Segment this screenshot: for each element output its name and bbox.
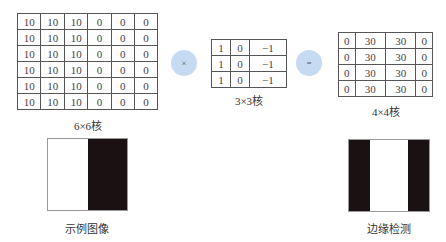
multiply-operator-icon: × — [171, 50, 197, 76]
matrix-cell: 0 — [111, 14, 134, 30]
equals-symbol: = — [306, 58, 311, 68]
image-band — [349, 140, 370, 211]
matrix-cell: −1 — [249, 40, 286, 56]
matrix-row: 101010000 — [18, 30, 158, 46]
input-matrix-6x6: 1010100001010100001010100001010100001010… — [17, 13, 158, 110]
matrix-cell: 10 — [18, 62, 41, 78]
matrix-cell: 1 — [212, 40, 231, 56]
matrix-cell: 0 — [88, 62, 111, 78]
matrix-cell: 0 — [111, 30, 134, 46]
matrix-row: 101010000 — [18, 62, 158, 78]
matrix-cell: 0 — [88, 78, 111, 94]
matrix-cell: 30 — [385, 65, 415, 81]
matrix-cell: 0 — [416, 49, 433, 65]
matrix-row: 10−1 — [212, 40, 287, 56]
image-band — [370, 140, 409, 211]
image-band — [48, 139, 88, 210]
sample-image — [47, 138, 128, 211]
matrix-cell: 0 — [339, 81, 356, 97]
multiply-symbol: × — [181, 58, 186, 68]
input-matrix-label: 6×6核 — [60, 117, 116, 133]
matrix-cell: 0 — [111, 94, 134, 110]
equals-operator-icon: = — [296, 50, 322, 76]
matrix-cell: 1 — [212, 56, 231, 72]
matrix-cell: 0 — [230, 40, 249, 56]
matrix-cell: 10 — [18, 30, 41, 46]
matrix-cell: 30 — [355, 49, 385, 65]
matrix-cell: 30 — [385, 81, 415, 97]
matrix-cell: 0 — [230, 56, 249, 72]
matrix-cell: 30 — [355, 33, 385, 49]
matrix-cell: 30 — [355, 81, 385, 97]
matrix-cell: 0 — [416, 33, 433, 49]
edge-detection-image — [348, 139, 430, 212]
matrix-cell: 10 — [41, 14, 64, 30]
matrix-cell: 0 — [88, 14, 111, 30]
matrix-row: 10−1 — [212, 72, 287, 88]
matrix-cell: −1 — [249, 56, 286, 72]
image-band — [88, 139, 128, 210]
output-matrix-4x4: 030300030300030300030300 — [338, 32, 433, 97]
matrix-cell: 10 — [18, 78, 41, 94]
matrix-cell: 10 — [18, 94, 41, 110]
matrix-cell: 10 — [64, 14, 87, 30]
matrix-cell: 0 — [416, 65, 433, 81]
matrix-cell: 1 — [212, 72, 231, 88]
image-band — [408, 140, 429, 211]
matrix-cell: 0 — [111, 62, 134, 78]
matrix-cell: 10 — [41, 62, 64, 78]
matrix-cell: 10 — [64, 78, 87, 94]
matrix-cell: 0 — [134, 14, 157, 30]
matrix-cell: 0 — [339, 49, 356, 65]
matrix-row: 030300 — [339, 81, 433, 97]
matrix-cell: 10 — [41, 46, 64, 62]
sample-image-label: 示例图像 — [52, 220, 122, 236]
matrix-cell: 0 — [134, 94, 157, 110]
matrix-cell: 10 — [18, 46, 41, 62]
matrix-cell: 0 — [88, 94, 111, 110]
matrix-cell: 10 — [41, 78, 64, 94]
kernel-matrix-3x3: 10−110−110−1 — [211, 39, 287, 88]
matrix-cell: 30 — [355, 65, 385, 81]
matrix-cell: 0 — [111, 78, 134, 94]
matrix-cell: 10 — [41, 30, 64, 46]
matrix-cell: 0 — [339, 65, 356, 81]
matrix-cell: 0 — [230, 72, 249, 88]
matrix-row: 030300 — [339, 33, 433, 49]
matrix-cell: 0 — [134, 30, 157, 46]
matrix-cell: 10 — [64, 62, 87, 78]
matrix-cell: 0 — [88, 30, 111, 46]
matrix-cell: −1 — [249, 72, 286, 88]
matrix-cell: 10 — [64, 30, 87, 46]
matrix-row: 101010000 — [18, 78, 158, 94]
matrix-row: 10−1 — [212, 56, 287, 72]
matrix-cell: 10 — [18, 14, 41, 30]
matrix-row: 101010000 — [18, 46, 158, 62]
matrix-cell: 0 — [134, 62, 157, 78]
matrix-cell: 10 — [64, 46, 87, 62]
matrix-row: 030300 — [339, 65, 433, 81]
matrix-row: 101010000 — [18, 94, 158, 110]
output-matrix-label: 4×4核 — [358, 103, 414, 119]
matrix-cell: 0 — [416, 81, 433, 97]
matrix-cell: 10 — [41, 94, 64, 110]
edge-detection-label: 边缘检测 — [354, 220, 424, 236]
matrix-row: 030300 — [339, 49, 433, 65]
matrix-row: 101010000 — [18, 14, 158, 30]
matrix-cell: 0 — [88, 46, 111, 62]
matrix-cell: 0 — [111, 46, 134, 62]
kernel-matrix-label: 3×3核 — [221, 92, 277, 108]
matrix-cell: 0 — [339, 33, 356, 49]
matrix-cell: 30 — [385, 33, 415, 49]
matrix-cell: 0 — [134, 46, 157, 62]
matrix-cell: 30 — [385, 49, 415, 65]
matrix-cell: 0 — [134, 78, 157, 94]
matrix-cell: 10 — [64, 94, 87, 110]
